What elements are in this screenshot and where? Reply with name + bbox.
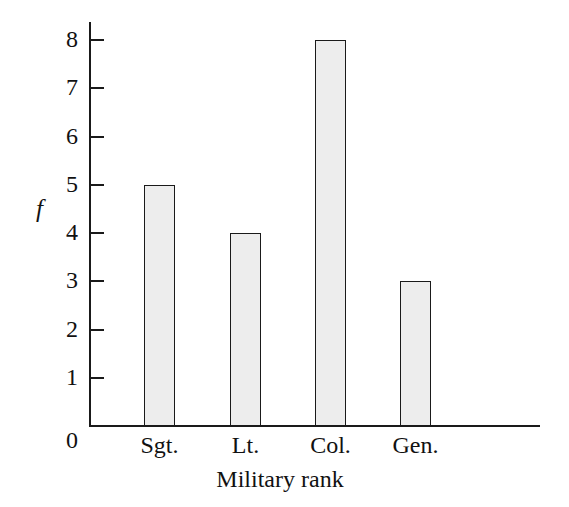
y-axis-tick-label-4: 4 xyxy=(48,220,78,244)
y-axis-tick-label-6: 6 xyxy=(48,124,78,148)
x-axis-title: Military rank xyxy=(0,466,560,492)
y-axis-tick-1 xyxy=(91,377,104,379)
x-axis-category-label-gen: Gen. xyxy=(356,432,476,458)
y-axis-zero-label: 0 xyxy=(48,428,78,452)
y-axis-tick-label-1: 1 xyxy=(48,365,78,389)
y-axis-tick-5 xyxy=(91,184,104,186)
y-axis-tick-4 xyxy=(91,232,104,234)
bar-sgt xyxy=(144,185,175,426)
y-axis-tick-6 xyxy=(91,136,104,138)
y-axis-tick-label-8: 8 xyxy=(48,27,78,51)
y-axis-tick-2 xyxy=(91,329,104,331)
bar-gen xyxy=(400,281,431,426)
y-axis-tick-3 xyxy=(91,280,104,282)
y-axis-line xyxy=(89,22,91,427)
y-axis-tick-label-3: 3 xyxy=(48,268,78,292)
y-axis-tick-8 xyxy=(91,39,104,41)
y-axis-tick-label-5: 5 xyxy=(48,172,78,196)
bar-col xyxy=(315,40,346,426)
bar-lt xyxy=(230,233,261,426)
y-axis-tick-7 xyxy=(91,87,104,89)
y-axis-tick-label-2: 2 xyxy=(48,317,78,341)
y-axis-title: f xyxy=(36,196,43,221)
y-axis-tick-label-7: 7 xyxy=(48,75,78,99)
bar-chart-figure: 12345678 Sgt.Lt.Col.Gen. 0 f Military ra… xyxy=(0,0,569,507)
